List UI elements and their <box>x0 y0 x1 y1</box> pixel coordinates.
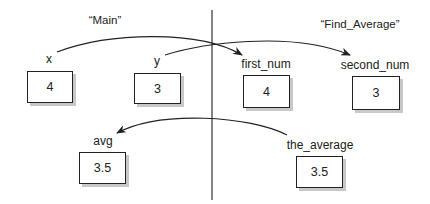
arrow-y-to-second-num <box>165 41 350 55</box>
arrow-the-average-to-avg <box>117 118 287 135</box>
var-label-the-average: the_average <box>287 138 354 152</box>
var-box-x: 4 <box>27 71 73 103</box>
var-box-first-num: 4 <box>243 75 290 108</box>
arrow-x-to-first-num <box>57 37 242 55</box>
var-value-first-num: 4 <box>263 85 270 99</box>
var-value-x: 4 <box>47 80 54 94</box>
var-box-avg: 3.5 <box>79 152 126 184</box>
var-box-second-num: 3 <box>352 76 400 110</box>
var-label-y: y <box>154 54 160 68</box>
var-value-avg: 3.5 <box>94 161 111 175</box>
var-value-second-num: 3 <box>373 86 380 100</box>
var-box-the-average: 3.5 <box>296 156 343 188</box>
scope-label-main: “Main” <box>89 14 122 26</box>
var-label-avg: avg <box>93 134 112 148</box>
var-label-first-num: first_num <box>241 57 290 71</box>
var-box-y: 3 <box>134 73 181 104</box>
var-value-y: 3 <box>154 82 161 96</box>
var-label-x: x <box>46 52 52 66</box>
var-label-second-num: second_num <box>341 58 410 72</box>
scope-label-find-average: “Find_Average” <box>320 18 399 30</box>
var-value-the-average: 3.5 <box>311 165 328 179</box>
